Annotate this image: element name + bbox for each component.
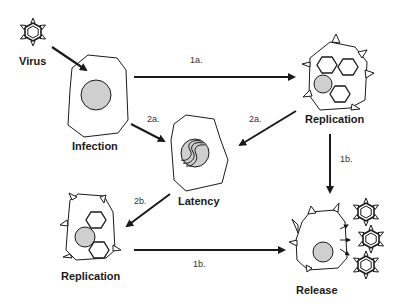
edge-label-2b: 2b. — [134, 196, 147, 206]
viral-life-cycle-diagram: Virus Infection Replication Latency Repl… — [0, 0, 400, 307]
edge-label-1b-vertical: 1b. — [340, 154, 353, 164]
arrow-2a-left — [131, 124, 164, 141]
edge-label-1b-horizontal: 1b. — [193, 259, 206, 269]
infection-label: Infection — [72, 140, 118, 152]
edge-label-2a-right: 2a. — [249, 114, 262, 124]
released-virus-icons — [354, 198, 384, 279]
virus-label: Virus — [19, 55, 46, 67]
release-label: Release — [296, 284, 338, 296]
arrow-virus-to-infection — [52, 47, 86, 70]
replication-bottom-cell — [60, 193, 121, 260]
infection-cell — [68, 55, 128, 137]
release-cell — [289, 203, 350, 272]
replication-top-label: Replication — [305, 113, 364, 125]
replication-top-cell — [302, 34, 374, 110]
latency-cell — [171, 115, 228, 191]
edge-label-1a: 1a. — [190, 55, 203, 65]
edge-label-2a-left: 2a. — [147, 114, 160, 124]
replication-bottom-label: Replication — [61, 270, 120, 282]
virus-icon — [21, 18, 46, 46]
latency-label: Latency — [178, 195, 220, 207]
